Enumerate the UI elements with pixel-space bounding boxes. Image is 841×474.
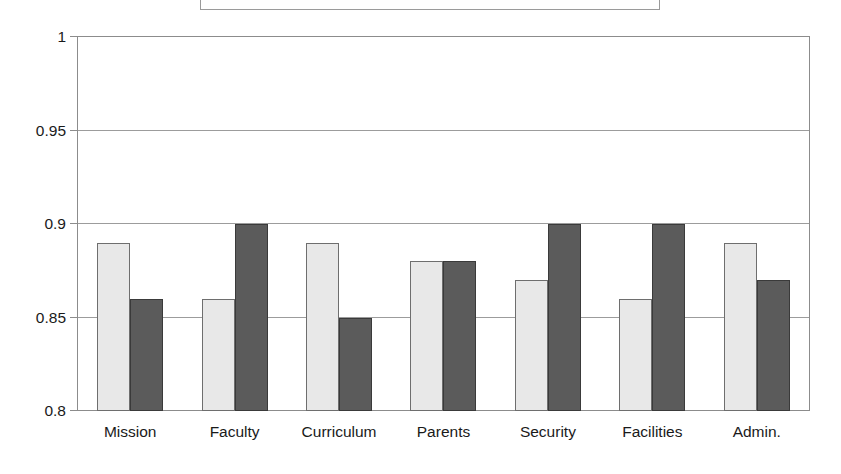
bar-group: [78, 37, 182, 411]
y-tick-label: 0.9: [44, 216, 66, 232]
bar[interactable]: [130, 299, 163, 411]
y-tick-mark-1: [70, 36, 77, 37]
y-axis-tick-labels: 10.950.90.850.8: [0, 0, 66, 474]
y-tick-label: 1: [57, 29, 66, 45]
y-tick-mark-0.8: [70, 410, 77, 411]
bar[interactable]: [443, 261, 476, 411]
x-tick-label: Parents: [391, 424, 495, 440]
bar[interactable]: [202, 299, 235, 411]
bar[interactable]: [652, 224, 685, 411]
bar-group: [705, 37, 809, 411]
bar-group: [496, 37, 600, 411]
bar-group: [600, 37, 704, 411]
y-tick-mark-0.95: [70, 130, 77, 131]
x-tick-label: Facilities: [600, 424, 704, 440]
x-tick-label: Admin.: [705, 424, 809, 440]
bar[interactable]: [235, 224, 268, 411]
bar-group: [287, 37, 391, 411]
bar-group: [391, 37, 495, 411]
y-tick-mark-0.9: [70, 223, 77, 224]
bar[interactable]: [548, 224, 581, 411]
bar[interactable]: [724, 243, 757, 411]
y-tick-mark-0.85: [70, 317, 77, 318]
bar[interactable]: [306, 243, 339, 411]
y-tick-label: 0.8: [44, 403, 66, 419]
y-tick-label: 0.95: [36, 123, 66, 139]
bar[interactable]: [619, 299, 652, 411]
x-tick-label: Faculty: [182, 424, 286, 440]
x-tick-label: Mission: [78, 424, 182, 440]
bar-group: [182, 37, 286, 411]
bar[interactable]: [757, 280, 790, 411]
x-tick-label: Security: [496, 424, 600, 440]
bar[interactable]: [515, 280, 548, 411]
y-tick-label: 0.85: [36, 310, 66, 326]
legend-box: [200, 0, 660, 10]
bar[interactable]: [339, 318, 372, 412]
bar[interactable]: [97, 243, 130, 411]
x-tick-label: Curriculum: [287, 424, 391, 440]
x-axis-tick-labels: MissionFacultyCurriculumParentsSecurityF…: [78, 424, 809, 454]
bar[interactable]: [410, 261, 443, 411]
bars-container: [78, 37, 809, 411]
